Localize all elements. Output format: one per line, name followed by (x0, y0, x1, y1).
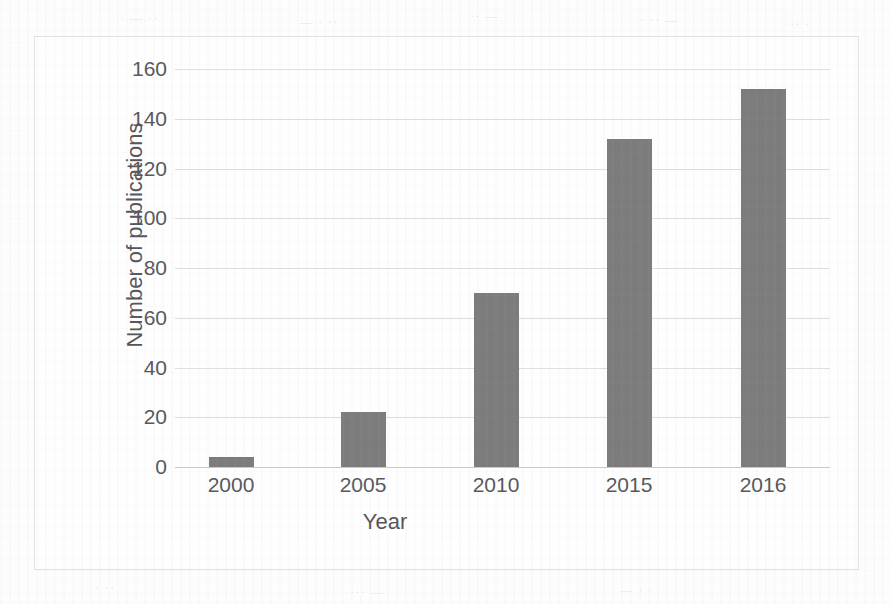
x-axis-tick-labels: 20002005201020152016 (175, 473, 864, 509)
x-tick-label-2000: 2000 (191, 473, 271, 497)
bleedthrough-mark-0: · — ·· (120, 10, 159, 26)
bar-2016 (741, 89, 786, 467)
bleedthrough-mark-2: ·· — (470, 8, 499, 24)
plot-area (175, 69, 864, 467)
gridline-80 (175, 268, 830, 269)
y-axis-title: Number of publications (122, 75, 148, 395)
y-tick-label-0: 0 (107, 455, 167, 479)
x-tick-label-2010: 2010 (456, 473, 536, 497)
gridline-0 (175, 467, 830, 468)
bar-2000 (209, 457, 254, 467)
gridline-100 (175, 218, 830, 219)
x-tick-label-2016: 2016 (723, 473, 803, 497)
chart-frame: 020406080100120140160 200020052010201520… (34, 36, 859, 570)
bleedthrough-mark-7: · ·· (95, 580, 115, 596)
bar-2010 (474, 293, 519, 467)
bleedthrough-mark-1: — · ·· (300, 14, 339, 30)
x-tick-label-2015: 2015 (589, 473, 669, 497)
x-tick-label-2005: 2005 (323, 473, 403, 497)
x-axis-title: Year (175, 509, 595, 535)
bleedthrough-mark-9: — · · (620, 582, 653, 598)
bar-2015 (607, 139, 652, 467)
bleedthrough-mark-4: ·· · (790, 16, 810, 32)
y-tick-label-20: 20 (107, 405, 167, 429)
gridline-120 (175, 169, 830, 170)
bar-2005 (341, 412, 386, 467)
bleedthrough-mark-8: ··· — (350, 584, 384, 600)
gridline-160 (175, 69, 830, 70)
bleedthrough-mark-3: · ·· — (640, 12, 679, 28)
gridline-140 (175, 119, 830, 120)
